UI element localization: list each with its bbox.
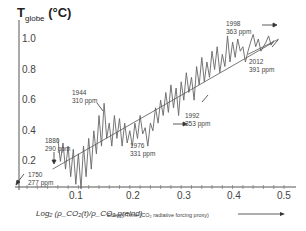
- trend-line: [53, 42, 274, 169]
- x-tick-label: 0.4: [227, 190, 241, 201]
- chart-plot: [0, 0, 306, 231]
- annotation-1976: 1976331 ppm: [130, 142, 155, 157]
- y-tick-label: 0.8: [22, 64, 36, 75]
- data-lines: [53, 34, 279, 189]
- annotation-arrows: [16, 23, 278, 185]
- y-tick-label: 1.0: [22, 33, 36, 44]
- x-tick-label: 0.1: [69, 190, 83, 201]
- trend-line: [248, 39, 279, 54]
- x-tick-label: 0.5: [277, 190, 291, 201]
- annotation-1998: 1998363 ppm: [226, 20, 251, 35]
- temperature-line: [58, 34, 274, 189]
- y-axis-title: Tglobe (°C): [17, 5, 71, 23]
- annotation-1750: 1750277 ppm: [28, 171, 53, 186]
- annotation-1992: 1992353 ppm: [185, 112, 210, 127]
- y-tick-label: 0.2: [22, 155, 36, 166]
- y-tick-label: 0.4: [22, 125, 36, 136]
- annotation-1880: 1880290 ppm: [45, 137, 70, 152]
- annotation-2012: 2012391 ppm: [249, 58, 274, 73]
- annotation-1944: 1944310 ppm: [72, 89, 97, 104]
- x-tick-label: 0.2: [126, 190, 140, 201]
- x-axis-label: Energy/Time (CO₂ radiative forcing proxy…: [107, 212, 209, 218]
- x-tick-label: 0.3: [177, 190, 191, 201]
- y-tick-label: 0.6: [22, 94, 36, 105]
